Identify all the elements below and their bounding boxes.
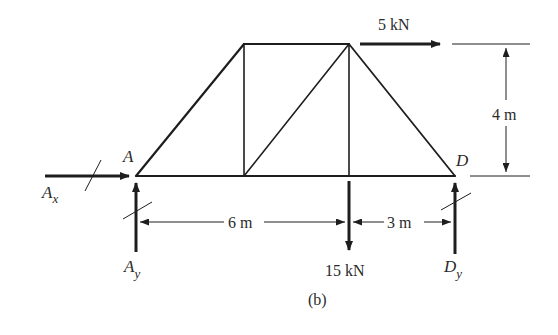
load-5kn-label: 5 kN: [378, 16, 410, 33]
member-diagonal: [244, 44, 349, 176]
joint-a-label: A: [122, 147, 134, 166]
reaction-ax-label: Ax: [41, 183, 58, 206]
reaction-ax: Ax: [41, 160, 129, 206]
reaction-ay: Ay: [123, 183, 152, 281]
span-3m-label: 3 m: [387, 214, 412, 231]
truss-members: [136, 44, 455, 176]
reaction-dy: Dy: [441, 183, 471, 281]
load-15kn-label: 15 kN: [325, 262, 365, 279]
joint-d-label: D: [455, 151, 469, 170]
reaction-dy-label: Dy: [443, 257, 462, 281]
figure-caption: (b): [308, 291, 327, 309]
reaction-ay-label: Ay: [123, 257, 140, 281]
span-6m-label: 6 m: [228, 214, 253, 231]
member-left-incline: [136, 44, 244, 176]
load-5kn: 5 kN: [360, 16, 440, 44]
member-right-incline: [349, 44, 455, 176]
load-15kn: 15 kN: [325, 181, 365, 279]
truss-diagram: 5 kN 4 m A D Ax Ay 15 kN Dy 6 m: [0, 0, 558, 335]
height-dimension-label: 4 m: [492, 106, 517, 123]
